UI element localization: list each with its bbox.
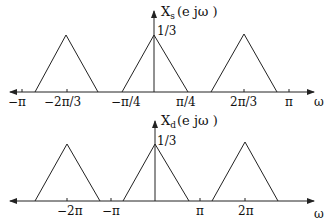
bottom-tick-label-neg-2pi: −2π [57, 204, 83, 218]
top-tick-label-neg-pi-4: −π/4 [111, 95, 141, 109]
top-tick-label-neg-pi: −π [8, 95, 26, 109]
spectra-diagram: Xs(e jω ) 1/3 −π −2π/3 −π/4 π/4 2π/3 π ω… [0, 0, 328, 221]
top-tick-label-neg-2pi-3: −2π/3 [44, 95, 81, 109]
top-tick-label-pi: π [285, 95, 293, 109]
top-plot: Xs(e jω ) 1/3 −π −2π/3 −π/4 π/4 2π/3 π ω [8, 4, 324, 109]
top-triangle-left [35, 35, 98, 92]
bottom-tick-label-pi: π [196, 204, 204, 218]
bottom-tick-label-neg-pi: −π [102, 204, 120, 218]
top-axis-label-omega: ω [314, 95, 324, 109]
top-tick-label-pi-4: π/4 [176, 95, 196, 109]
bottom-triangle-center [123, 144, 189, 201]
bottom-axis-label-omega: ω [314, 207, 324, 221]
bottom-tick-label-2pi: 2π [238, 204, 254, 218]
top-title: Xs(e jω ) [161, 4, 218, 21]
top-peak-label: 1/3 [157, 24, 176, 38]
top-triangle-center [122, 35, 188, 92]
bottom-triangle-right [212, 142, 278, 201]
bottom-peak-label: 1/3 [157, 134, 176, 148]
bottom-title: Xd(e jω ) [161, 113, 218, 130]
top-tick-label-2pi-3: 2π/3 [230, 95, 257, 109]
bottom-triangle-left [35, 144, 100, 201]
bottom-plot: Xd(e jω ) 1/3 −2π −π π 2π ω [10, 113, 324, 221]
top-triangle-right [211, 34, 277, 92]
